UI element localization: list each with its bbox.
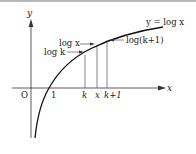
tick-k1-label: k+1 (104, 90, 122, 100)
annotation-logk: log k (44, 47, 66, 57)
y-axis-arrow-icon (29, 19, 34, 27)
curve-label: y = log x (145, 17, 184, 27)
annotation-logk1: log(k+1) (126, 35, 164, 45)
x-axis-label: x (167, 83, 172, 93)
tick-k-label: k (82, 90, 87, 100)
origin-label: O (21, 90, 28, 100)
arrow-logx-head-icon (90, 43, 95, 46)
tick-one-label: 1 (51, 90, 56, 100)
diagram-frame: y x O 1 k x k+1 y = log x log x log k lo… (0, 0, 196, 154)
y-axis-label: y (26, 8, 33, 18)
log-graph: y x O 1 k x k+1 y = log x log x log k lo… (0, 0, 196, 154)
x-axis-arrow-icon (158, 86, 166, 91)
tick-x-label: x (95, 90, 100, 100)
